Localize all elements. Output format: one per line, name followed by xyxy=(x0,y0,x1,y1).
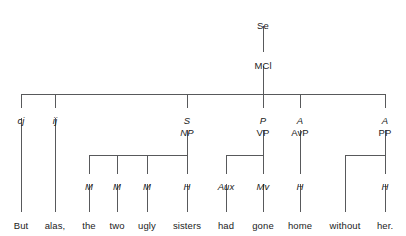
node-label-p-fn: P xyxy=(260,115,266,126)
node-label-m3: M xyxy=(143,181,151,192)
word-w-gone: gone xyxy=(252,220,274,231)
node-label-a1-fn: A xyxy=(297,115,303,126)
node-label-avp-form: AvP xyxy=(291,127,309,138)
node-label-cj: cj xyxy=(17,115,24,126)
word-w-home: home xyxy=(288,220,312,231)
node-label-s-fn: S xyxy=(184,115,190,126)
word-w-sisters: sisters xyxy=(173,220,201,231)
word-w-ugly: ugly xyxy=(138,220,156,231)
node-label-mcl: MCl xyxy=(254,60,271,71)
node-label-h-pp: H xyxy=(382,181,389,192)
word-w-without: without xyxy=(330,220,361,231)
node-label-a2-fn: A xyxy=(382,115,388,126)
word-w-the: the xyxy=(82,220,96,231)
tree-edges-layer xyxy=(0,0,406,236)
node-label-m2: M xyxy=(113,181,121,192)
syntax-tree-diagram: SeMClcjijSNPPVPAAvPAPPMMMHAuxMvHH Butala… xyxy=(0,0,406,236)
word-w-had: had xyxy=(218,220,234,231)
node-label-mv: Mv xyxy=(257,181,270,192)
node-label-ij: ij xyxy=(53,115,57,126)
node-label-se: Se xyxy=(257,20,269,31)
node-label-aux: Aux xyxy=(218,181,235,192)
node-label-np-form: NP xyxy=(180,127,193,138)
word-w-alas: alas, xyxy=(45,220,66,231)
node-label-pp-form: PP xyxy=(379,127,392,138)
node-label-h-avp: H xyxy=(297,181,304,192)
node-label-h-np: H xyxy=(184,181,191,192)
word-w-but: But xyxy=(14,220,29,231)
word-w-two: two xyxy=(109,220,124,231)
node-label-m1: M xyxy=(85,181,93,192)
node-label-vp-form: VP xyxy=(257,127,270,138)
word-w-her: her. xyxy=(377,220,393,231)
edges-group xyxy=(21,26,385,212)
